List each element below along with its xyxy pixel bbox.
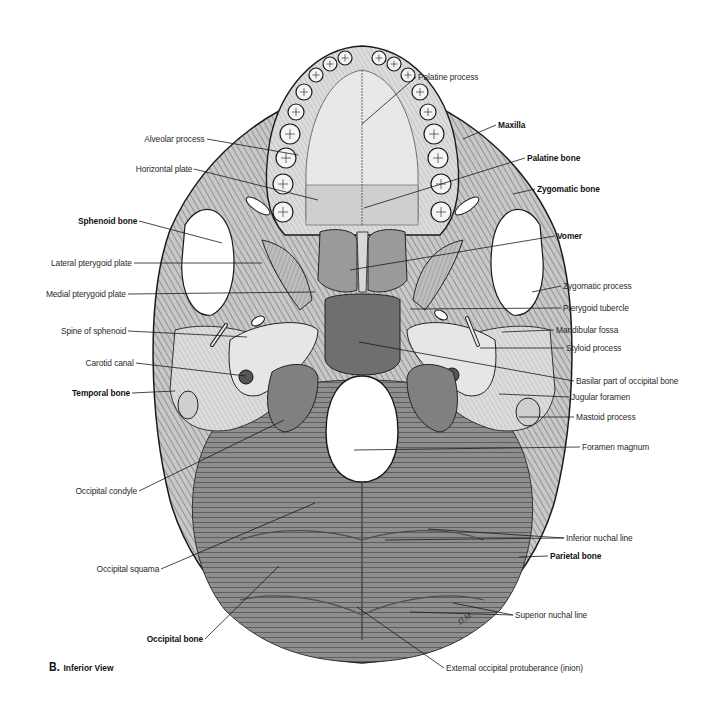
mastoid-right: [516, 398, 540, 426]
caption-text: Inferior View: [63, 662, 113, 673]
label-mastoid-process: Mastoid process: [576, 411, 636, 422]
label-zygomatic-process: Zygomatic process: [563, 280, 632, 291]
choana-right: [368, 230, 407, 292]
label-maxilla: Maxilla: [498, 119, 525, 130]
label-occipital-squama: Occipital squama: [96, 563, 159, 574]
label-carotid-canal: Carotid canal: [86, 357, 134, 368]
label-styloid-process: Styloid process: [566, 342, 621, 353]
label-external-occipital-protuberance: External occipital protuberance (inion): [446, 662, 583, 673]
label-palatine-process: Palatine process: [418, 71, 478, 82]
label-inferior-nuchal-line: Inferior nuchal line: [566, 532, 633, 543]
label-sphenoid-bone: Sphenoid bone: [78, 215, 137, 226]
label-superior-nuchal-line: Superior nuchal line: [515, 609, 587, 620]
label-lateral-pterygoid-plate: Lateral pterygoid plate: [51, 257, 132, 268]
label-zygomatic-bone: Zygomatic bone: [537, 183, 600, 194]
label-pterygoid-tubercle: Pterygoid tubercle: [563, 302, 629, 313]
label-palatine-bone: Palatine bone: [527, 152, 580, 163]
zygomatic-fossa-right: [491, 209, 543, 315]
label-jugular-foramen: Jugular foramen: [571, 391, 630, 402]
label-alveolar-process: Alveolar process: [145, 133, 205, 144]
label-medial-pterygoid-plate: Medial pterygoid plate: [46, 288, 126, 299]
label-occipital-bone: Occipital bone: [147, 633, 203, 644]
label-basilar-part: Basilar part of occipital bone: [576, 375, 678, 386]
figure-caption: B. Inferior View: [49, 657, 114, 675]
label-horizontal-plate: Horizontal plate: [135, 163, 192, 174]
zygomatic-fossa-left: [182, 209, 234, 315]
label-spine-of-sphenoid: Spine of sphenoid: [61, 325, 126, 336]
skull-inferior-view-figure: D.M. Alveolar processHorizontal plateSph…: [0, 0, 725, 714]
foramen-magnum-shape: [326, 376, 398, 482]
choana-left: [318, 230, 357, 292]
panel-letter: B.: [49, 660, 60, 674]
label-mandibular-fossa: Mandibular fossa: [556, 324, 618, 335]
label-parietal-bone: Parietal bone: [550, 550, 601, 561]
label-foramen-magnum: Foramen magnum: [582, 441, 649, 452]
mastoid-left: [178, 391, 198, 419]
carotid-canal-left: [239, 370, 253, 384]
label-vomer: Vomer: [557, 230, 582, 241]
label-temporal-bone: Temporal bone: [72, 387, 130, 398]
label-occipital-condyle: Occipital condyle: [75, 485, 137, 496]
vomer-shape: [357, 232, 368, 292]
basilar-part-shape: [325, 294, 400, 375]
